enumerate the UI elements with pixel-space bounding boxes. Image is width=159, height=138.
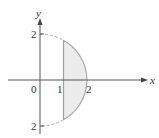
y-axis-label: y — [35, 7, 41, 19]
y-bottom-label: 2 — [31, 120, 37, 132]
y-axis-arrow-icon — [38, 18, 43, 25]
x-axis-label: x — [149, 74, 155, 86]
x-axis-arrow-icon — [141, 78, 148, 83]
x-tick-label-1: 1 — [57, 83, 63, 95]
x-tick-label-2: 2 — [86, 83, 92, 95]
dashed-arc-bottom — [40, 120, 64, 126]
dashed-arc-top — [40, 34, 64, 40]
diagram-canvas: y x 0 1 2 2 2 — [0, 0, 159, 138]
y-top-label: 2 — [31, 28, 37, 40]
origin-label: 0 — [31, 83, 37, 95]
